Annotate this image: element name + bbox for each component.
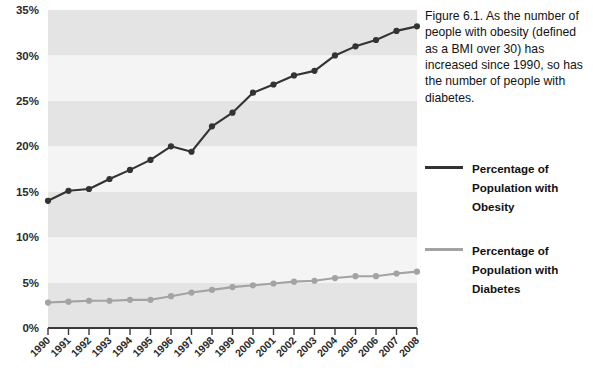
data-point	[311, 278, 317, 284]
data-point	[86, 298, 92, 304]
legend-item-diabetes: Percentage of Population with Diabetes	[425, 242, 593, 298]
x-axis-tick-label: 1990	[27, 334, 52, 359]
data-point	[373, 273, 379, 279]
x-axis-tick-label: 1999	[212, 334, 237, 359]
data-point	[229, 284, 235, 290]
data-point	[168, 293, 174, 299]
y-axis-tick-label: 25%	[16, 95, 39, 107]
legend-label-obesity: Percentage of Population with Obesity	[472, 160, 584, 216]
legend-item-obesity: Percentage of Population with Obesity	[425, 160, 593, 216]
line-chart: 0%5%10%15%20%25%30%35% 19901991199219931…	[0, 0, 420, 389]
x-axis-tick-label: 1995	[130, 334, 155, 359]
x-axis-tick-label: 2006	[355, 334, 380, 359]
x-axis-tick-label: 1992	[68, 334, 93, 359]
data-point	[352, 273, 358, 279]
data-point	[127, 297, 133, 303]
x-axis-tick-label: 2000	[232, 334, 257, 359]
data-point	[188, 289, 194, 295]
data-point	[250, 90, 256, 96]
data-point	[373, 37, 379, 43]
y-axis-tick-label: 30%	[16, 50, 39, 62]
x-axis-ticks: 1990199119921993199419951996199719981999…	[27, 328, 420, 359]
data-point	[45, 198, 51, 204]
data-point	[393, 28, 399, 34]
data-point	[209, 287, 215, 293]
y-axis-tick-label: 5%	[22, 277, 39, 289]
data-point	[65, 188, 71, 194]
y-axis-tick-label: 10%	[16, 231, 39, 243]
x-axis-tick-label: 1997	[171, 334, 196, 359]
y-axis-tick-label: 35%	[16, 4, 39, 16]
y-axis-tick-label: 15%	[16, 186, 39, 198]
data-point	[270, 280, 276, 286]
x-axis-tick-label: 2003	[294, 334, 319, 359]
x-axis-tick-label: 2008	[396, 334, 420, 359]
x-axis-tick-label: 1998	[191, 334, 216, 359]
data-point	[414, 23, 420, 29]
data-point	[127, 167, 133, 173]
y-axis-tick-label: 20%	[16, 140, 39, 152]
y-axis-tick-label: 0%	[22, 322, 39, 334]
data-point	[86, 186, 92, 192]
data-point	[352, 43, 358, 49]
data-point	[168, 143, 174, 149]
data-point	[147, 157, 153, 163]
data-point	[106, 298, 112, 304]
x-axis-tick-label: 1993	[89, 334, 114, 359]
data-point	[45, 299, 51, 305]
data-point	[250, 282, 256, 288]
legend-swatch-diabetes	[425, 248, 463, 251]
x-axis-tick-label: 2001	[253, 334, 278, 359]
data-point	[393, 270, 399, 276]
data-point	[270, 81, 276, 87]
chart-legend: Percentage of Population with Obesity Pe…	[425, 160, 593, 325]
x-axis-tick-label: 1994	[109, 334, 134, 359]
data-point	[147, 297, 153, 303]
data-point	[332, 52, 338, 58]
chart-area: 0%5%10%15%20%25%30%35% 19901991199219931…	[0, 0, 420, 389]
data-point	[311, 68, 317, 74]
data-point	[332, 275, 338, 281]
y-axis-ticks: 0%5%10%15%20%25%30%35%	[16, 4, 39, 334]
data-point	[291, 279, 297, 285]
data-point	[106, 176, 112, 182]
legend-label-diabetes: Percentage of Population with Diabetes	[472, 242, 584, 298]
data-point	[291, 72, 297, 78]
data-point	[188, 149, 194, 155]
data-point	[414, 269, 420, 275]
x-axis-tick-label: 2007	[376, 334, 401, 359]
x-axis-tick-label: 1996	[150, 334, 175, 359]
side-panel: Figure 6.1. As the number of people with…	[425, 0, 593, 389]
background-bands	[48, 10, 417, 328]
data-point	[229, 110, 235, 116]
x-axis-tick-label: 2005	[335, 334, 360, 359]
x-axis-tick-label: 2002	[273, 334, 298, 359]
x-axis-tick-label: 1991	[48, 334, 73, 359]
data-point	[65, 299, 71, 305]
figure-6-1: 0%5%10%15%20%25%30%35% 19901991199219931…	[0, 0, 593, 389]
legend-swatch-obesity	[425, 166, 463, 169]
data-point	[209, 123, 215, 129]
figure-caption: Figure 6.1. As the number of people with…	[425, 8, 589, 106]
x-axis-tick-label: 2004	[314, 334, 339, 359]
